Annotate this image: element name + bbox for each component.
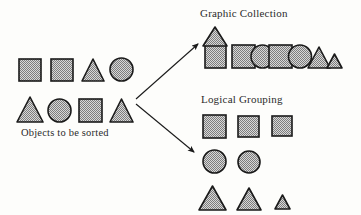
graphic-collection-strip — [232, 45, 342, 68]
group-triangle-3[interactable] — [275, 195, 290, 209]
source-triangle-1[interactable] — [82, 59, 104, 81]
house-body-square[interactable] — [205, 45, 226, 68]
logical-grouping-circles — [203, 150, 260, 173]
logical-grouping-title: Logical Grouping — [201, 93, 283, 105]
source-row-2 — [17, 97, 133, 122]
group-square-3[interactable] — [272, 116, 292, 136]
source-circle-1[interactable] — [110, 58, 133, 81]
source-row-1 — [19, 58, 133, 81]
logical-grouping-triangles — [199, 186, 290, 210]
strip-triangle-2[interactable] — [327, 54, 342, 68]
group-circle-2[interactable] — [238, 151, 260, 173]
group-circle-1[interactable] — [203, 150, 226, 173]
arrow-to-graphic-collection — [136, 44, 198, 99]
strip-circle-2[interactable] — [289, 45, 312, 68]
group-square-2[interactable] — [238, 116, 259, 137]
graphic-collection-title: Graphic Collection — [200, 7, 288, 19]
objects-to-be-sorted-caption: Objects to be sorted — [21, 127, 109, 138]
source-triangle-3[interactable] — [110, 99, 133, 122]
house-roof-triangle[interactable] — [203, 27, 227, 46]
shapes-layer — [0, 0, 361, 215]
arrow-to-logical-grouping — [136, 104, 194, 152]
source-circle-2[interactable] — [48, 99, 71, 122]
source-square-2[interactable] — [51, 59, 73, 81]
group-triangle-1[interactable] — [199, 186, 226, 210]
logical-grouping-squares — [203, 115, 292, 138]
group-triangle-2[interactable] — [237, 188, 261, 210]
source-square-1[interactable] — [19, 59, 41, 81]
source-triangle-2[interactable] — [17, 97, 43, 122]
diagram-canvas: Graphic Collection Logical Grouping Obje… — [0, 0, 361, 215]
graphic-collection-house — [203, 27, 227, 68]
source-square-3[interactable] — [79, 99, 102, 122]
group-square-1[interactable] — [203, 115, 226, 138]
